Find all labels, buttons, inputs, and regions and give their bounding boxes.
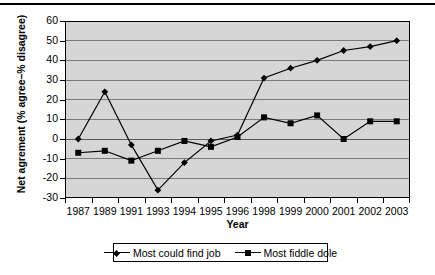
- data-point-square: [128, 158, 134, 164]
- data-point-diamond: [314, 57, 321, 64]
- data-point-diamond: [287, 65, 294, 72]
- data-point-square: [394, 118, 400, 124]
- data-point-square: [235, 134, 241, 140]
- series-most-could-find-job: [75, 37, 400, 193]
- series-layer: [0, 0, 435, 275]
- data-point-diamond: [75, 136, 82, 143]
- data-point-diamond: [393, 37, 400, 44]
- data-point-diamond: [128, 142, 135, 149]
- data-point-diamond: [367, 43, 374, 50]
- chart-container: Net agrement (% agree–% disagree) 605040…: [0, 0, 435, 275]
- data-point-square: [314, 112, 320, 118]
- data-point-square: [75, 150, 81, 156]
- data-point-square: [155, 148, 161, 154]
- data-point-square: [208, 144, 214, 150]
- data-point-square: [181, 138, 187, 144]
- data-point-square: [288, 120, 294, 126]
- series-most-fiddle-dole: [75, 112, 399, 163]
- data-point-diamond: [340, 47, 347, 54]
- data-point-square: [341, 136, 347, 142]
- series-line: [78, 41, 396, 190]
- data-point-square: [102, 148, 108, 154]
- data-point-diamond: [261, 75, 268, 82]
- data-point-square: [261, 114, 267, 120]
- data-point-diamond: [101, 88, 108, 95]
- data-point-square: [367, 118, 373, 124]
